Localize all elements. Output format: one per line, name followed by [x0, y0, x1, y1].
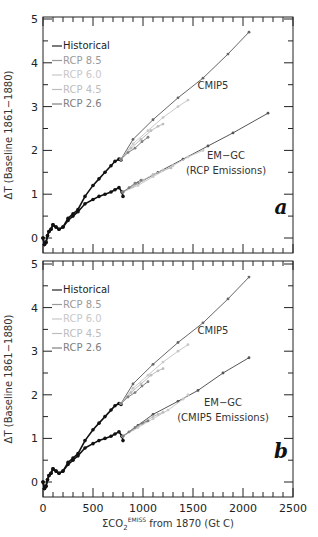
data-marker — [128, 186, 131, 189]
y-tick-label: 4 — [31, 57, 38, 70]
data-marker — [122, 435, 125, 438]
legend-label: Historical — [63, 40, 110, 51]
data-marker — [91, 428, 95, 432]
data-marker — [121, 195, 125, 199]
data-marker — [97, 177, 101, 181]
y-axis-title: ΔT (Baseline 1861−1880) — [3, 315, 14, 444]
data-marker — [128, 430, 131, 433]
data-marker — [152, 118, 155, 121]
data-marker — [97, 195, 101, 199]
data-marker — [172, 164, 175, 167]
data-marker — [140, 179, 143, 182]
series-line — [43, 159, 121, 244]
x-axis-title: ΣCO2EMISS from 1870 (Gt C) — [102, 516, 234, 532]
y-tick-label: 3 — [31, 345, 38, 358]
data-marker — [61, 469, 65, 473]
data-marker — [57, 471, 61, 475]
data-marker — [54, 225, 58, 229]
series-line — [43, 432, 123, 489]
y-tick-label: 1 — [31, 188, 38, 201]
panel-b: 012345ΔT (Baseline 1861−1880)HistoricalR… — [3, 258, 293, 497]
annotation-label: EM−GC — [207, 150, 245, 161]
data-marker — [83, 195, 87, 199]
data-marker — [248, 31, 251, 34]
data-marker — [177, 96, 180, 99]
data-marker — [152, 173, 155, 176]
y-tick-label: 3 — [31, 101, 38, 114]
data-marker — [103, 437, 107, 441]
annotation-label: (RCP Emissions) — [186, 165, 266, 176]
data-marker — [162, 169, 165, 172]
legend-label: RCP 8.5 — [63, 55, 102, 66]
x-tick-label: 2500 — [279, 502, 307, 515]
data-marker — [132, 387, 135, 390]
data-marker — [113, 188, 117, 192]
data-marker — [113, 160, 117, 164]
data-marker — [134, 391, 137, 394]
data-marker — [248, 276, 251, 279]
data-marker — [130, 147, 133, 150]
data-marker — [46, 478, 50, 482]
y-tick-label: 5 — [31, 258, 38, 271]
data-marker — [162, 361, 165, 364]
data-marker — [157, 369, 160, 372]
data-marker — [66, 463, 70, 467]
data-marker — [227, 297, 230, 300]
data-marker — [109, 164, 113, 168]
y-tick-label: 2 — [31, 389, 38, 402]
data-marker — [76, 210, 80, 214]
annotation-label: CMIP5 — [198, 80, 229, 91]
data-marker — [187, 393, 190, 396]
data-marker — [71, 214, 75, 218]
x-tick-label: 1500 — [179, 502, 207, 515]
legend-label: RCP 6.0 — [63, 69, 102, 80]
data-marker — [103, 192, 107, 196]
data-marker — [51, 223, 55, 227]
data-marker — [109, 190, 113, 194]
data-marker — [227, 53, 230, 56]
data-marker — [157, 413, 160, 416]
data-marker — [132, 383, 135, 386]
data-marker — [44, 241, 48, 245]
y-tick-label: 2 — [31, 144, 38, 157]
data-marker — [147, 420, 150, 423]
data-marker — [162, 411, 165, 414]
legend-label: RCP 2.6 — [63, 98, 102, 109]
data-marker — [83, 446, 87, 450]
panel-a: 012345ΔT (Baseline 1861−1880)HistoricalR… — [3, 13, 293, 253]
data-marker — [57, 227, 61, 231]
data-marker — [132, 138, 135, 141]
data-marker — [197, 389, 200, 392]
data-marker — [130, 391, 133, 394]
y-tick-label: 1 — [31, 432, 38, 445]
data-marker — [141, 140, 144, 143]
chart-figure: 012345ΔT (Baseline 1861−1880)HistoricalR… — [0, 0, 318, 537]
data-marker — [117, 186, 121, 190]
data-marker — [141, 385, 144, 388]
data-marker — [49, 471, 53, 475]
data-marker — [97, 439, 101, 443]
data-marker — [187, 343, 190, 346]
plot-frame — [43, 261, 293, 497]
data-marker — [66, 219, 70, 223]
data-marker — [134, 182, 137, 185]
data-marker — [113, 404, 117, 408]
data-marker — [109, 408, 113, 412]
data-marker — [152, 363, 155, 366]
data-marker — [182, 398, 185, 401]
data-marker — [222, 372, 225, 375]
legend-label: RCP 8.5 — [63, 299, 102, 310]
data-marker — [187, 156, 190, 159]
data-marker — [202, 149, 205, 152]
data-marker — [147, 374, 150, 377]
legend-label: RCP 4.5 — [63, 328, 102, 339]
data-marker — [120, 402, 123, 405]
panel-letter: a — [275, 195, 288, 219]
data-marker — [207, 145, 210, 148]
data-marker — [121, 439, 125, 443]
data-marker — [51, 467, 55, 471]
data-marker — [120, 158, 123, 161]
data-marker — [141, 422, 144, 425]
data-marker — [162, 367, 165, 370]
data-marker — [134, 426, 137, 429]
